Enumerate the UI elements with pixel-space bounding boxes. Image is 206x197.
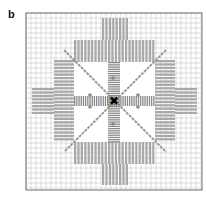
knob-2 [88,105,92,109]
bar-block-bottom-tall [102,164,128,185]
center-x-marker-icon: ✖ [109,94,119,108]
knob-0 [88,93,92,97]
knob-4 [111,76,115,80]
knob-1 [136,93,140,97]
knob-3 [136,105,140,109]
bar-block-right-narrow [155,60,175,140]
knob-5 [111,122,115,126]
grid-pattern-diagram: ✖ [0,0,206,197]
bar-block-top-tall [102,18,128,40]
